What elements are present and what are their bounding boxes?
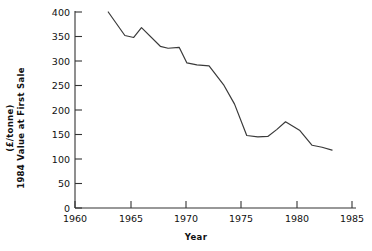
chart-container: 400 350 300 250 200 150 100 50 0 1960 19… — [0, 0, 372, 251]
y-axis-title: 1984 Value at First Sale (£/tonne) — [5, 67, 26, 189]
y-tick-label-0: 0 — [64, 203, 70, 214]
line-chart: 400 350 300 250 200 150 100 50 0 1960 19… — [0, 0, 372, 251]
x-tick-label-1970: 1970 — [174, 213, 198, 224]
y-axis-ticks — [75, 12, 82, 208]
y-axis-title-line2: 1984 Value at First Sale — [16, 67, 26, 189]
y-tick-label-300: 300 — [52, 56, 70, 67]
y-tick-label-400: 400 — [52, 7, 70, 18]
x-axis: 1960 1965 1970 1975 1980 1985 Year — [63, 201, 364, 242]
y-tick-label-200: 200 — [52, 105, 70, 116]
x-tick-label-1980: 1980 — [285, 213, 309, 224]
y-tick-label-50: 50 — [58, 178, 70, 189]
x-tick-label-1985: 1985 — [340, 213, 364, 224]
y-axis-title-line1: (£/tonne) — [5, 104, 15, 151]
x-tick-label-1975: 1975 — [229, 213, 253, 224]
x-axis-title: Year — [184, 232, 208, 242]
y-tick-label-350: 350 — [52, 31, 70, 42]
data-series-line — [108, 12, 332, 150]
x-tick-label-1960: 1960 — [63, 213, 87, 224]
x-axis-ticks — [75, 201, 352, 208]
x-tick-label-1965: 1965 — [119, 213, 143, 224]
y-tick-label-250: 250 — [52, 80, 70, 91]
y-tick-label-150: 150 — [52, 129, 70, 140]
y-tick-label-100: 100 — [52, 154, 70, 165]
y-axis: 400 350 300 250 200 150 100 50 0 — [52, 7, 82, 214]
